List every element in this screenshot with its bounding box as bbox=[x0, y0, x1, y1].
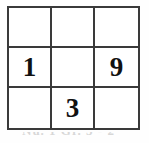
grid-cell-r1c2[interactable]: 9 bbox=[95, 48, 138, 88]
cell-value-r1c2: 9 bbox=[110, 54, 124, 81]
grid-cell-r0c0[interactable] bbox=[9, 8, 52, 48]
figure-caption: Nu. 1 Gr. 3 - 2 bbox=[22, 132, 132, 139]
grid-cell-r2c0[interactable] bbox=[9, 88, 52, 128]
cell-value-r2c1: 3 bbox=[66, 95, 80, 122]
caption-strip: Nu. 1 Gr. 3 - 2 bbox=[0, 132, 149, 143]
figure-canvas: 1 9 3 Nu. 1 Gr. 3 - 2 bbox=[0, 0, 149, 143]
grid-cell-r1c1[interactable] bbox=[52, 48, 95, 88]
number-grid: 1 9 3 bbox=[7, 6, 140, 130]
cell-value-r1c0: 1 bbox=[23, 54, 37, 81]
grid-cell-r0c2[interactable] bbox=[95, 8, 138, 48]
grid-cell-r0c1[interactable] bbox=[52, 8, 95, 48]
grid-cell-r1c0[interactable]: 1 bbox=[9, 48, 52, 88]
grid-cell-r2c2[interactable] bbox=[95, 88, 138, 128]
grid-cell-r2c1[interactable]: 3 bbox=[52, 88, 95, 128]
grid-container: 1 9 3 bbox=[7, 6, 140, 130]
